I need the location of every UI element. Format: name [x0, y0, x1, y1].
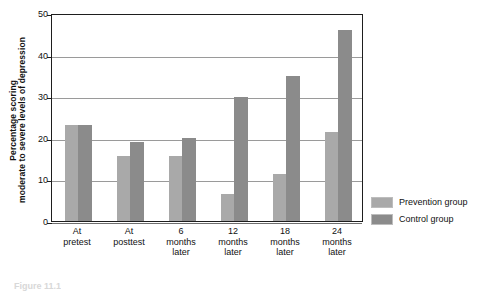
x-axis-tick-label-line: At	[51, 226, 103, 237]
x-axis-tick-label-line: later	[259, 247, 311, 258]
bar-prevention	[273, 174, 287, 221]
x-axis-tick-label-line: 6	[155, 226, 207, 237]
x-axis-tick-label-line: later	[155, 247, 207, 258]
y-axis-tick-label: 0	[24, 218, 48, 227]
bar-control	[338, 30, 352, 221]
bar-prevention	[221, 194, 235, 221]
legend-label: Prevention group	[399, 197, 468, 208]
bar-control	[234, 97, 248, 221]
bar-control	[182, 138, 196, 221]
chart-legend: Prevention groupControl group	[371, 196, 497, 230]
x-axis-tick-label: 18monthslater	[259, 226, 311, 258]
bar-group	[273, 15, 300, 221]
bar-group	[325, 15, 352, 221]
bar-prevention	[169, 156, 183, 221]
bar-group	[117, 15, 144, 221]
bars-layer	[52, 15, 362, 221]
x-axis-tick-label-line: 12	[207, 226, 259, 237]
legend-swatch	[371, 197, 393, 208]
figure-caption: Figure 11.1	[14, 281, 61, 291]
y-axis-tick-label: 50	[24, 10, 48, 19]
x-axis-tick-label: 12monthslater	[207, 226, 259, 258]
bar-control	[130, 142, 144, 221]
x-axis-tick-label-line: months	[259, 237, 311, 248]
x-axis-tick-label-line: posttest	[103, 237, 155, 248]
legend-label: Control group	[399, 214, 454, 225]
x-axis-tick-label-line: 24	[311, 226, 363, 237]
x-axis-tick-label-line: later	[207, 247, 259, 258]
x-axis-tick-label-line: later	[311, 247, 363, 258]
gridline	[52, 223, 362, 224]
x-axis-tick-label-line: 18	[259, 226, 311, 237]
y-axis-tick-label: 40	[24, 51, 48, 60]
x-axis-tick-label: 24monthslater	[311, 226, 363, 258]
y-axis-tick-label: 30	[24, 93, 48, 102]
legend-swatch	[371, 214, 393, 225]
bar-group	[169, 15, 196, 221]
x-axis-tick-label: Atpretest	[51, 226, 103, 247]
x-axis-tick-labels: AtpretestAtposttest6monthslater12monthsl…	[51, 226, 363, 276]
plot-area	[51, 14, 363, 222]
bar-control	[78, 125, 92, 222]
x-axis-tick-label-line: At	[103, 226, 155, 237]
x-axis-tick-label-line: months	[207, 237, 259, 248]
bar-prevention	[65, 125, 79, 221]
bar-group	[221, 15, 248, 221]
x-axis-tick-label-line: months	[311, 237, 363, 248]
bar-control	[286, 76, 300, 221]
y-axis-tick-labels: 01020304050	[24, 14, 48, 222]
legend-item[interactable]: Control group	[371, 213, 497, 226]
x-axis-tick-label-line: months	[155, 237, 207, 248]
legend-item[interactable]: Prevention group	[371, 196, 497, 209]
x-axis-tick-label: 6monthslater	[155, 226, 207, 258]
y-axis-tick-label: 10	[24, 176, 48, 185]
bar-group	[65, 15, 92, 221]
y-axis-tick-label: 20	[24, 134, 48, 143]
x-axis-tick-label: Atposttest	[103, 226, 155, 247]
y-axis-tick-mark	[47, 223, 52, 224]
figure: Percentage scoring moderate to severe le…	[0, 0, 499, 291]
bar-prevention	[325, 132, 339, 221]
x-axis-tick-label-line: pretest	[51, 237, 103, 248]
bar-prevention	[117, 156, 131, 221]
